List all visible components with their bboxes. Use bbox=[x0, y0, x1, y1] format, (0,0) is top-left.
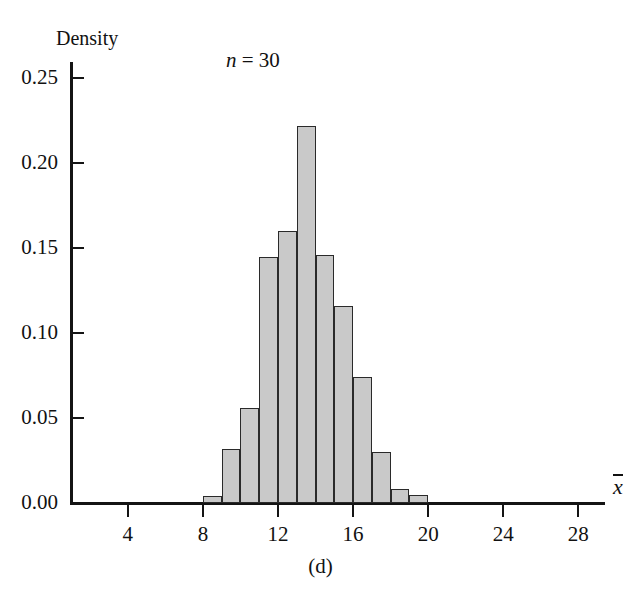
histogram-bar bbox=[222, 449, 241, 503]
x-tick bbox=[502, 505, 504, 517]
x-tick bbox=[577, 505, 579, 517]
plot-area bbox=[0, 0, 641, 598]
x-tick bbox=[427, 505, 429, 517]
x-tick-label: 8 bbox=[183, 524, 223, 545]
y-tick bbox=[73, 77, 84, 79]
histogram-bar bbox=[203, 496, 222, 503]
x-axis-label: x bbox=[613, 474, 623, 498]
histogram-bar bbox=[259, 257, 278, 504]
y-tick-label: 0.20 bbox=[0, 152, 58, 173]
x-tick-label: 28 bbox=[558, 524, 598, 545]
y-tick bbox=[73, 417, 84, 419]
y-tick-label: 0.15 bbox=[0, 237, 58, 258]
x-tick bbox=[202, 505, 204, 517]
x-tick bbox=[127, 505, 129, 517]
y-tick-label: 0.00 bbox=[0, 492, 58, 513]
x-tick bbox=[352, 505, 354, 517]
histogram-bar bbox=[240, 408, 259, 503]
x-tick-label: 12 bbox=[258, 524, 298, 545]
histogram-bar bbox=[316, 255, 335, 503]
y-tick-label: 0.10 bbox=[0, 322, 58, 343]
histogram-bar bbox=[297, 126, 316, 503]
histogram-bar bbox=[372, 452, 391, 503]
histogram-bar bbox=[278, 231, 297, 503]
figure-caption: (d) bbox=[0, 556, 641, 577]
x-tick-label: 4 bbox=[108, 524, 148, 545]
x-tick-label: 16 bbox=[333, 524, 373, 545]
histogram-bar bbox=[334, 306, 353, 503]
histogram-chart: Density n = 30 x (d) 0.000.050.100.150.2… bbox=[0, 0, 641, 598]
x-tick-label: 20 bbox=[408, 524, 448, 545]
x-bar-symbol: x bbox=[613, 474, 623, 497]
x-tick-label: 24 bbox=[483, 524, 523, 545]
y-tick bbox=[73, 502, 84, 504]
y-tick bbox=[73, 247, 84, 249]
y-tick bbox=[73, 332, 84, 334]
x-tick bbox=[277, 505, 279, 517]
y-tick bbox=[73, 162, 84, 164]
histogram-bar bbox=[391, 489, 410, 503]
y-tick-label: 0.25 bbox=[0, 67, 58, 88]
y-tick-label: 0.05 bbox=[0, 407, 58, 428]
histogram-bar bbox=[353, 377, 372, 503]
histogram-bar bbox=[409, 495, 428, 504]
